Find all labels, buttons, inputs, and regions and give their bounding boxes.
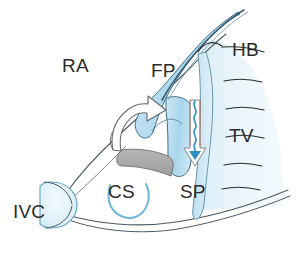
label-hb: HB: [232, 39, 259, 60]
anatomy-diagram: RA FP HB TV SP CS IVC: [0, 0, 297, 263]
label-tv: TV: [229, 125, 254, 146]
label-fp: FP: [151, 60, 176, 81]
label-ra: RA: [62, 55, 89, 76]
eustachian-ridge-shadow: [117, 149, 174, 176]
figure-canvas: RA FP HB TV SP CS IVC: [0, 0, 297, 263]
label-cs: CS: [108, 181, 135, 202]
label-ivc: IVC: [13, 201, 45, 222]
label-sp: SP: [180, 181, 206, 202]
